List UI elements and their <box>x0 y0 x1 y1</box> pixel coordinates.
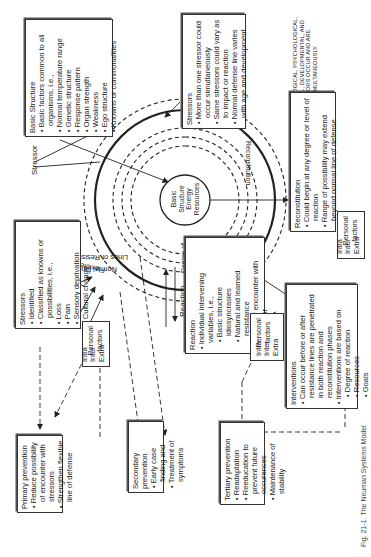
reconstitution-box: Reconstitution Could begin at any degree… <box>290 92 336 232</box>
stressors-occurrence-box: Stressors More than one stressor could o… <box>182 14 246 129</box>
secondary-prevention-box: Secondary prevention Early case finding … <box>128 421 164 493</box>
personal-factor-item: Extra <box>272 339 281 356</box>
tertiary-prevention-box: Tertiary prevention Readaptation Reeduca… <box>220 422 265 505</box>
personal-factors-reconstitution: Personal factors IntraInterExtra <box>337 211 365 259</box>
figure-caption: Fig. 21-1. The Neuman Systems Model <box>360 425 367 547</box>
diagram-canvas: Flexible Line of Defense Normal Line of … <box>0 0 371 557</box>
personal-factors-reaction: Personal factors IntraInterExtra <box>250 313 284 361</box>
interventions-box: Interventions Can occur before or after … <box>286 284 358 409</box>
personal-factor-item: Extra <box>98 345 107 362</box>
primary-prevention-box: Primary prevention Reduce possibility of… <box>17 435 63 513</box>
core-label: Basic Structure Energy Resources <box>170 178 200 220</box>
personal-factor-item: Extra <box>353 237 362 254</box>
reconstitution-label: Reconstitution <box>245 141 252 185</box>
personal-factors-stressors: Personal factors IntraInterExtra <box>82 321 110 367</box>
stressor-top-label: Stressor <box>30 145 39 175</box>
basic-structure-box: Basic Structure Basic factors common to … <box>25 19 113 137</box>
stressors-identified-box: Stressors Identified Classified as known… <box>15 221 81 329</box>
